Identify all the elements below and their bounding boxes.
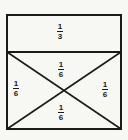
denominator: 6	[14, 90, 18, 97]
numerator: 1	[58, 23, 62, 30]
label-left-sixth: 1 6	[10, 80, 22, 97]
numerator: 1	[59, 104, 63, 111]
numerator: 1	[14, 80, 18, 87]
denominator: 6	[59, 114, 63, 121]
denominator: 6	[59, 71, 63, 78]
numerator: 1	[59, 61, 63, 68]
label-right-sixth: 1 6	[99, 81, 111, 98]
numerator: 1	[103, 81, 107, 88]
denominator: 3	[58, 33, 62, 40]
label-top-third: 1 3	[54, 23, 66, 40]
label-lower-sixth: 1 6	[55, 104, 67, 121]
label-upper-sixth: 1 6	[55, 61, 67, 78]
denominator: 6	[103, 91, 107, 98]
